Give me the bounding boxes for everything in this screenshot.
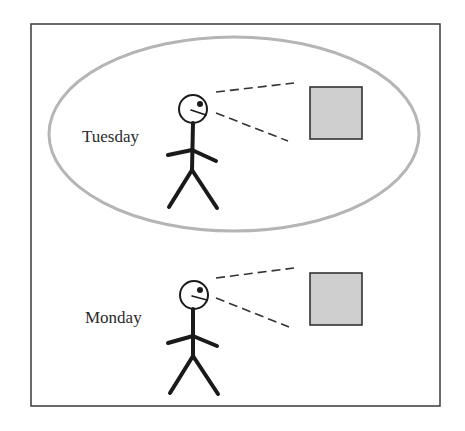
body-line (192, 123, 193, 170)
head-icon (180, 281, 208, 309)
right-leg-line (193, 356, 218, 394)
head-icon (179, 95, 207, 123)
left-leg-line (169, 170, 192, 207)
scene-label-tuesday: Tuesday (82, 127, 139, 146)
gaze-line-lower (216, 113, 288, 141)
eye-icon (197, 101, 203, 107)
stick-figure-icon (168, 281, 218, 394)
right-arm-line (192, 150, 216, 161)
right-arm-line (193, 336, 217, 346)
gaze-line-upper (216, 268, 294, 278)
scene-tuesday: Tuesday (49, 37, 419, 231)
object-square-icon (310, 87, 362, 139)
object-square-icon (310, 273, 362, 325)
stick-figure-icon (168, 95, 217, 208)
diagram-canvas: Tuesday Monday (0, 0, 465, 431)
gaze-lines (216, 268, 294, 327)
gaze-line-lower (216, 298, 289, 327)
left-leg-line (170, 356, 193, 393)
left-arm-line (168, 336, 193, 343)
gaze-lines (216, 83, 294, 141)
scene-label-monday: Monday (85, 308, 142, 327)
right-leg-line (192, 170, 217, 208)
gaze-line-upper (216, 83, 294, 92)
left-arm-line (168, 150, 192, 155)
diagram-frame (31, 24, 440, 406)
eye-icon (197, 287, 203, 293)
scene-monday: Monday (85, 268, 362, 394)
